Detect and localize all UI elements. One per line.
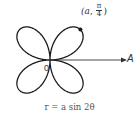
point-label-close: ) — [103, 6, 107, 16]
point-marker — [78, 28, 82, 32]
equation-caption: r = a sin 2θ — [0, 102, 139, 112]
point-label-sep: , — [90, 6, 93, 16]
point-label: ( a , π 4 ) — [81, 3, 107, 18]
origin-label: 0 — [44, 63, 49, 73]
axis-label: A — [127, 53, 134, 64]
point-label-theta: π 4 — [96, 3, 103, 18]
theta-denominator: 4 — [97, 11, 101, 18]
